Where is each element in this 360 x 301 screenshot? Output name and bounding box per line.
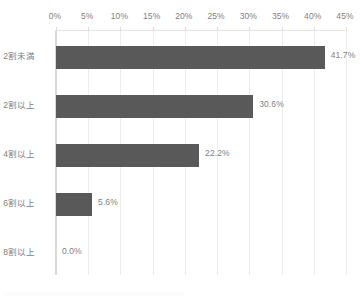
bar-row: 5.6%6割以上 [56,180,345,229]
bar-value-label: 22.2% [205,148,230,158]
x-tick-label: 10% [111,11,128,21]
x-tick-label: 25% [207,11,224,21]
bottom-edge-artifact [4,292,184,296]
bar-chart: 0%5%10%15%20%25%30%35%40%45% 41.7%2割未満30… [0,0,360,301]
bar-row: 0.0%8割以上 [56,229,345,278]
x-tick-label: 40% [304,11,321,21]
axis-tickmark [249,27,250,31]
axis-tickmark [185,27,186,31]
bar-value-label: 41.7% [331,50,356,60]
axis-tickmark [314,27,315,31]
category-label: 8割以上 [0,246,35,258]
category-label: 2割未満 [0,50,35,62]
x-tick-label: 5% [81,11,94,21]
axis-tickmark [346,27,347,31]
bar [56,46,325,69]
bar [56,193,92,216]
x-tick-label: 30% [240,11,257,21]
bar [56,95,253,118]
bar-row: 30.6%2割以上 [56,82,345,131]
axis-tickmark [153,27,154,31]
x-tick-label: 35% [272,11,289,21]
category-label: 6割以上 [0,197,35,209]
bar-value-label: 0.0% [62,246,82,256]
x-tick-label: 15% [143,11,160,21]
gridline [346,31,347,275]
bar-value-label: 5.6% [98,197,118,207]
bar-row: 22.2%4割以上 [56,131,345,180]
x-axis-tick-labels: 0%5%10%15%20%25%30%35%40%45% [0,11,360,25]
axis-tickmark [88,27,89,31]
category-label: 4割以上 [0,148,35,160]
axis-tickmark [282,27,283,31]
axis-tickmark [120,27,121,31]
x-tick-label: 0% [49,11,62,21]
plot-area: 41.7%2割未満30.6%2割以上22.2%4割以上5.6%6割以上0.0%8… [55,30,345,275]
axis-tickmark [217,27,218,31]
bar-row: 41.7%2割未満 [56,33,345,82]
category-label: 2割以上 [0,99,35,111]
x-tick-label: 45% [336,11,353,21]
bar [56,144,199,167]
axis-tickmark [56,27,57,31]
bar-value-label: 30.6% [259,99,284,109]
x-tick-label: 20% [175,11,192,21]
